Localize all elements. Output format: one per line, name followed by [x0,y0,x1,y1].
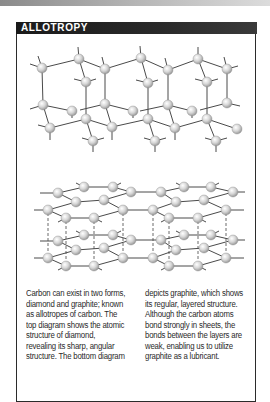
body-text: Carbon can exist in two forms, diamond a… [26,288,251,362]
text-line: weak, enabling us to utilize [145,341,244,352]
text-line: Carbon can exist in two forms, [26,288,125,299]
text-line: bonds between the layers are [145,330,244,341]
text-line: structure. The bottom diagram [26,351,125,362]
panel-title-bar: ALLOTROPY [16,22,257,34]
body-column-right: depicts graphite, which shows its regula… [145,288,244,362]
text-line: structure of diamond, [26,330,125,341]
panel-title: ALLOTROPY [21,22,88,34]
graphite-structure-diagram [17,178,257,288]
text-line: revealing its sharp, angular [26,341,125,352]
text-line: diamond and graphite; known [26,299,125,310]
diamond-structure-diagram [17,40,257,160]
text-line: Although the carbon atoms [145,309,244,320]
text-line: bond strongly in sheets, the [145,320,244,331]
text-line: top diagram shows the atomic [26,320,125,331]
text-line: depicts graphite, which shows [145,288,244,299]
top-gradient-bar [0,0,270,6]
text-line: graphite as a lubricant. [145,351,244,362]
text-line: its regular, layered structure. [145,299,244,310]
body-column-left: Carbon can exist in two forms, diamond a… [26,288,125,362]
text-line: as allotropes of carbon. The [26,309,125,320]
